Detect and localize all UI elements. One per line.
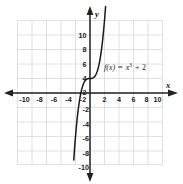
equation-fx: f(x) <box>104 63 115 72</box>
y-axis-label: y <box>94 9 99 19</box>
x-tick-label: 8 <box>145 95 149 104</box>
graph-figure: y x -10 -8 -6 -4 -2 2 4 6 8 10 10 8 6 4 … <box>0 0 183 184</box>
y-tick-label: -8 <box>83 149 89 158</box>
x-tick-label: -8 <box>36 95 42 104</box>
x-axis-arrow-left <box>4 90 13 97</box>
y-tick-label: -10 <box>79 163 89 172</box>
x-tick-label: -6 <box>51 95 57 104</box>
y-tick-label: -6 <box>83 134 89 143</box>
x-tick-label: -10 <box>19 95 29 104</box>
y-axis-arrow-down <box>87 173 94 182</box>
equation-constant: 2 <box>142 63 146 72</box>
equation-exponent: 3 <box>129 62 132 68</box>
x-axis <box>4 90 178 97</box>
y-tick-label: 8 <box>83 45 87 54</box>
x-tick-label: 6 <box>132 95 136 104</box>
y-axis-arrow-up <box>87 6 94 15</box>
x-tick-label: 4 <box>117 95 121 104</box>
y-tick-label: -2 <box>83 105 89 114</box>
equation-plus: + <box>135 63 140 72</box>
equation-annotation: f(x)=x3+2 <box>104 62 146 72</box>
x-axis-arrow-right <box>168 90 178 97</box>
coordinate-plane: y x -10 -8 -6 -4 -2 2 4 6 8 10 10 8 6 4 … <box>0 0 183 184</box>
x-tick-label: 10 <box>154 95 162 104</box>
x-axis-label: x <box>165 80 171 90</box>
y-tick-label: 10 <box>79 31 87 40</box>
x-tick-label: -4 <box>65 95 71 104</box>
y-tick-label: 6 <box>83 60 87 69</box>
y-tick-label: 2 <box>83 88 87 97</box>
x-tick-label: 2 <box>103 95 107 104</box>
y-tick-label: -4 <box>83 120 89 129</box>
equation-equals: = <box>118 63 123 72</box>
